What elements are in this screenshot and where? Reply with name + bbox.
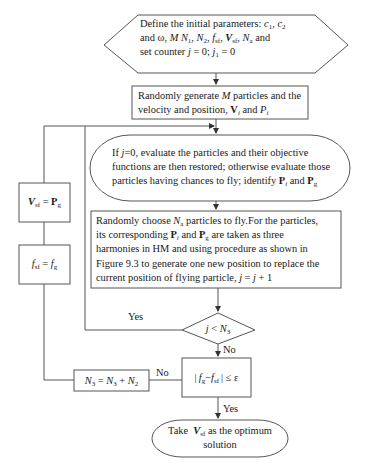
- decision-yes-label: Yes: [128, 310, 143, 324]
- convergence-no-label: No: [156, 366, 169, 380]
- convergence-yes-label: Yes: [223, 402, 238, 416]
- decision-text: j < N3: [188, 322, 248, 336]
- fly-text: Randomly choose Na particles to fly.For …: [96, 214, 340, 285]
- decision-no-label: No: [223, 343, 236, 357]
- update-n3-text: N3 = N3 + N2: [74, 374, 149, 388]
- convergence-text: | fg−fsf | ≤ ε: [182, 371, 251, 385]
- generate-text: Randomly generate M particles and the ve…: [138, 89, 310, 117]
- start-text: Define the initial parameters: c1, c2 an…: [140, 17, 320, 60]
- end-text: Take Vsf as the optimumsolution: [152, 424, 288, 452]
- update-fsf-text: fsf = fg: [19, 257, 70, 271]
- evaluate-text: If j=0, evaluate the particles and their…: [112, 146, 348, 189]
- update-vsf-text: Vsf = Pg: [19, 195, 70, 209]
